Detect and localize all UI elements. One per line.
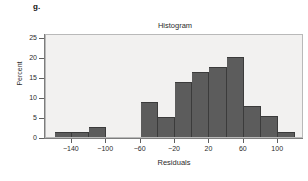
y-tick-label: 0: [5, 134, 37, 141]
histogram-bar: [55, 132, 72, 137]
y-axis-label: Percent: [16, 49, 23, 99]
histogram-bar: [175, 82, 192, 137]
histogram-bar: [141, 102, 158, 137]
histogram-bar: [227, 57, 244, 137]
y-axis-line: [44, 34, 45, 139]
chart-title: Histogram: [45, 21, 305, 30]
histogram-bar: [89, 127, 106, 137]
y-tick-label: 25: [5, 34, 37, 41]
x-tick-mark: [140, 139, 141, 143]
y-tick-mark: [39, 58, 44, 59]
histogram-bar: [209, 67, 226, 137]
histogram-bar: [192, 72, 209, 137]
y-tick-mark: [39, 138, 44, 139]
y-tick-mark: [39, 38, 44, 39]
plot-frame: [45, 34, 303, 138]
histogram-bar: [278, 132, 295, 137]
part-label: g.: [33, 2, 40, 11]
x-tick-mark: [277, 139, 278, 143]
histogram-bar: [244, 106, 261, 137]
histogram-bar: [158, 117, 175, 137]
x-tick-label: 100: [257, 145, 297, 152]
histogram-bar: [261, 116, 278, 137]
plot-area: [46, 35, 302, 137]
y-tick-mark: [39, 118, 44, 119]
x-tick-mark: [243, 139, 244, 143]
histogram-figure: g. Histogram 0510152025 −140−100−60−2020…: [0, 0, 308, 181]
y-tick-mark: [39, 78, 44, 79]
x-tick-mark: [174, 139, 175, 143]
x-axis-label: Residuals: [45, 158, 303, 167]
histogram-bar: [72, 132, 89, 137]
y-tick-label: 5: [5, 114, 37, 121]
x-tick-mark: [208, 139, 209, 143]
x-tick-mark: [71, 139, 72, 143]
x-tick-mark: [105, 139, 106, 143]
y-tick-mark: [39, 98, 44, 99]
